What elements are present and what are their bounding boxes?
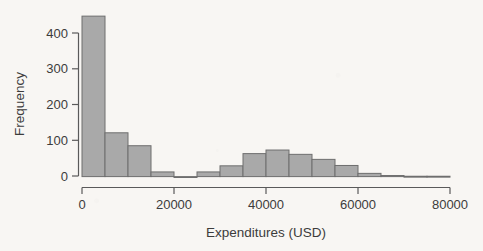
histogram-bar — [289, 154, 312, 176]
y-tick-label: 300 — [46, 61, 68, 76]
histogram-bar — [82, 16, 105, 176]
y-tick-label: 200 — [46, 97, 68, 112]
histogram-plot: 400 300 200 100 0 Frequency 0 20000 — [0, 0, 483, 251]
histogram-bar — [151, 172, 174, 177]
x-tick-label: 60000 — [340, 197, 376, 212]
histogram-bar — [266, 150, 289, 177]
y-axis-ticks — [72, 33, 79, 176]
y-axis-title: Frequency — [12, 72, 27, 136]
y-tick-label: 0 — [61, 169, 68, 184]
x-axis-title: Expenditures (USD) — [206, 225, 326, 240]
histogram-screenshot: 400 300 200 100 0 Frequency 0 20000 — [0, 0, 483, 251]
x-tick-labels: 0 20000 40000 60000 80000 — [78, 197, 468, 212]
histogram-bar — [197, 172, 220, 177]
x-tick-label: 40000 — [248, 197, 284, 212]
histogram-bars — [82, 16, 450, 177]
x-axis-ticks — [82, 188, 450, 195]
y-tick-label: 400 — [46, 26, 68, 41]
y-tick-labels: 400 300 200 100 0 — [46, 26, 68, 184]
y-tick-label: 100 — [46, 133, 68, 148]
histogram-bar — [404, 176, 427, 177]
histogram-bar — [128, 146, 151, 177]
histogram-bar — [220, 166, 243, 177]
histogram-bar — [358, 173, 381, 176]
histogram-bar — [427, 176, 450, 177]
histogram-bar — [243, 154, 266, 177]
histogram-bar — [381, 176, 404, 177]
x-tick-label: 20000 — [156, 197, 192, 212]
histogram-bar — [335, 165, 358, 176]
histogram-bar — [312, 159, 335, 176]
x-tick-label: 0 — [78, 197, 85, 212]
x-axis: 0 20000 40000 60000 80000 Expenditures (… — [78, 188, 468, 241]
histogram-bar — [105, 133, 128, 177]
histogram-bar — [174, 177, 197, 178]
x-tick-label: 80000 — [432, 197, 468, 212]
y-axis: 400 300 200 100 0 Frequency — [12, 26, 79, 184]
